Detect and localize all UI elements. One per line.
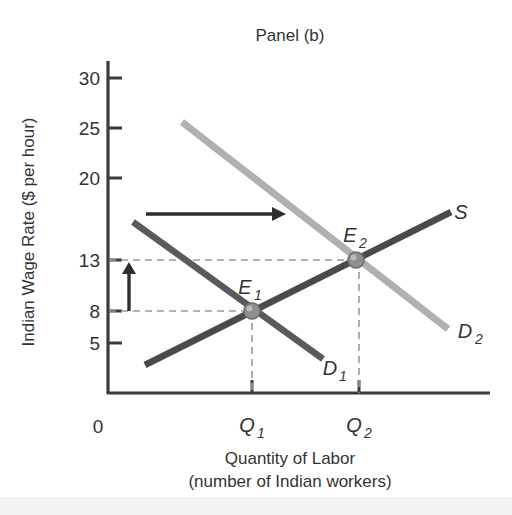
panel-title: Panel (b) <box>256 26 325 45</box>
y-tick-label-5: 5 <box>89 333 100 354</box>
y-tick-label-30: 30 <box>79 68 100 89</box>
y-tick-label-13: 13 <box>79 250 100 271</box>
equilibrium-point-e2-highlight <box>351 255 357 261</box>
x-axis-title-line2: (number of Indian workers) <box>188 472 391 491</box>
x-tick-label-q1-subscript: 1 <box>257 425 265 441</box>
supply-demand-chart: Panel (b) Indian Wage Rate ($ per hour) … <box>0 0 512 515</box>
y-tick-label-25: 25 <box>79 118 100 139</box>
demand2-curve-label-base: D <box>458 320 472 342</box>
y-tick-label-8: 8 <box>89 301 100 322</box>
x-tick-label-q2-subscript: 2 <box>363 425 372 441</box>
y-axis-title: Indian Wage Rate ($ per hour) <box>19 118 38 347</box>
equilibrium-point-e1-highlight <box>247 306 253 312</box>
economics-figure-panel-b: Panel (b) Indian Wage Rate ($ per hour) … <box>0 0 512 515</box>
demand1-curve-label-base: D <box>323 357 337 379</box>
equilibrium-label-e1-subscript: 1 <box>254 287 262 303</box>
equilibrium-label-e2-base: E <box>343 224 357 246</box>
x-axis-title-line1: Quantity of Labor <box>225 449 356 468</box>
chart-background <box>0 0 512 515</box>
supply-curve-label: S <box>454 201 468 223</box>
equilibrium-point-e1 <box>244 303 260 319</box>
equilibrium-label-e1-base: E <box>238 276 252 298</box>
equilibrium-label-e2-subscript: 2 <box>358 235 367 251</box>
demand1-curve-label-subscript: 1 <box>339 368 347 384</box>
equilibrium-point-e2 <box>348 252 364 268</box>
x-tick-label-q2-base: Q <box>346 414 362 436</box>
x-tick-label-q1-base: Q <box>239 414 255 436</box>
origin-label: 0 <box>93 416 104 437</box>
y-tick-label-20: 20 <box>79 168 100 189</box>
demand2-curve-label-subscript: 2 <box>474 331 483 347</box>
page-footer-band <box>0 497 512 515</box>
